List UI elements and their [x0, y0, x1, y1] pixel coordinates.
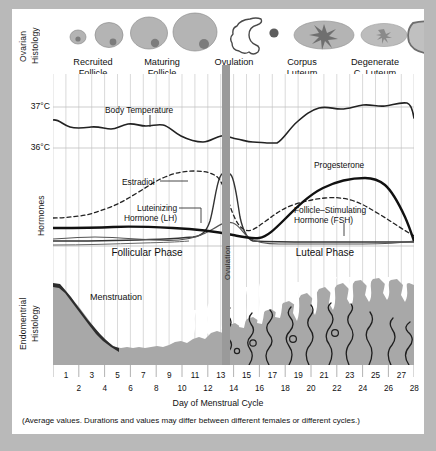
day-label-odd: 25	[368, 371, 384, 380]
day-label-even: 2	[71, 384, 87, 393]
endometrial-axis-line2: Histology	[30, 306, 40, 343]
day-label-odd: 17	[264, 371, 280, 380]
x-axis-title: Day of Menstrual Cycle	[12, 398, 424, 408]
day-label-even: 26	[381, 384, 397, 393]
day-label-even: 8	[148, 384, 164, 393]
x-axis-odd-day-labels: 1 3 5 7 9 11 13 15 17 19 21 23 25 27	[53, 371, 414, 385]
hormones-axis-label: Hormones	[36, 181, 52, 251]
fsh-leader-line	[342, 223, 346, 237]
menstrual-cycle-figure: Ovarian Histology Recruited Follicle Mat…	[12, 9, 424, 434]
endometrial-axis-line1: Endomentrial	[18, 298, 28, 350]
follicular-phase-label: Follicular Phase	[87, 247, 207, 258]
day-label-even: 12	[200, 384, 216, 393]
ovarian-histology-illustrations	[52, 11, 424, 55]
lh-label: Luteinizing Hormone (LH)	[124, 203, 177, 223]
day-label-odd: 7	[135, 371, 151, 380]
follicle-stage-2	[95, 23, 123, 48]
ovarian-stage-label-ovulation: Ovulation	[197, 57, 271, 68]
day-label-odd: 9	[161, 371, 177, 380]
day-label-odd: 27	[393, 371, 409, 380]
day-label-even: 10	[174, 384, 190, 393]
degenerate-corpus-luteum	[408, 21, 424, 54]
ovulation-marker-label: Ovulation	[223, 224, 232, 280]
lh-leader-line	[179, 203, 205, 225]
ovarian-axis-line2: Histology	[30, 28, 40, 65]
fsh-label-line2: Hormone (FSH)	[294, 215, 366, 225]
temperature-label-37: 37°C	[18, 101, 50, 111]
temperature-label-36: 36°C	[18, 142, 50, 152]
progesterone-label: Progesterone	[314, 160, 364, 170]
estradiol-leader-line	[160, 177, 190, 183]
figure-caption: (Average values. Durations and values ma…	[22, 416, 360, 425]
stage-2-line1: Ovulation	[197, 57, 271, 68]
lh-label-line2: Hormone (LH)	[124, 213, 177, 223]
day-label-even: 20	[303, 384, 319, 393]
day-label-even: 14	[226, 384, 242, 393]
ruptured-follicle-ovulation	[231, 18, 262, 54]
released-ovum	[269, 28, 278, 37]
fsh-label-line1: Follicle–Stimulating	[294, 205, 366, 215]
body-temperature-label: Body Temperature	[105, 105, 173, 115]
body-temperature-leader-line	[148, 115, 152, 127]
x-axis-even-day-labels: 2 4 6 8 10 12 14 16 18 20 22 24 26 28	[53, 384, 414, 398]
day-label-odd: 13	[213, 371, 229, 380]
lh-label-line1: Luteinizing	[124, 203, 177, 213]
ovulation-marker-bar	[222, 65, 230, 365]
day-label-odd: 3	[84, 371, 100, 380]
hormones-axis-text: Hormones	[36, 196, 46, 237]
endometrium-illustration	[53, 277, 414, 365]
stage-4-line1: Degenerate	[334, 57, 416, 68]
day-label-odd: 19	[290, 371, 306, 380]
day-label-even: 24	[355, 384, 371, 393]
fsh-label: Follicle–Stimulating Hormone (FSH)	[294, 205, 366, 225]
day-label-even: 6	[123, 384, 139, 393]
day-label-odd: 11	[187, 371, 203, 380]
day-label-odd: 15	[239, 371, 255, 380]
stage-1-line1: Maturing	[125, 57, 199, 68]
estradiol-label: Estradiol	[122, 177, 155, 187]
endometrial-histology-axis-label2: Histology	[30, 284, 52, 364]
day-label-even: 16	[252, 384, 268, 393]
day-label-even: 4	[97, 384, 113, 393]
day-label-even: 28	[406, 384, 422, 393]
day-label-odd: 21	[316, 371, 332, 380]
day-label-even: 22	[329, 384, 345, 393]
follicle-stage-3	[131, 17, 168, 49]
hormone-curves	[53, 159, 414, 249]
stage-3-line1: Corpus	[265, 57, 339, 68]
day-label-odd: 1	[58, 371, 74, 380]
day-label-odd: 23	[342, 371, 358, 380]
day-label-odd: 5	[110, 371, 126, 380]
ovarian-axis-line1: Ovarian	[18, 30, 28, 61]
stage-0-line1: Recruited	[56, 57, 130, 68]
luteal-phase-label: Luteal Phase	[270, 247, 380, 258]
follicle-stage-4	[173, 13, 217, 51]
day-label-even: 18	[277, 384, 293, 393]
menstruation-label: Menstruation	[90, 292, 142, 302]
ovarian-histology-axis-label2: Histology	[30, 15, 52, 77]
